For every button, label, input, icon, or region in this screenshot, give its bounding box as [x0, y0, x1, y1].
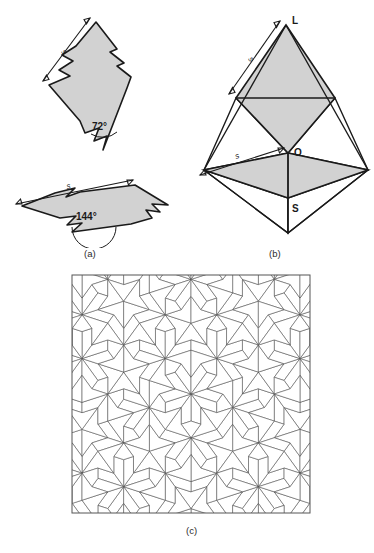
panel-a-rhombs: s 72° s 144°	[0, 8, 190, 248]
caption-b: (b)	[269, 248, 281, 259]
fat-rhomb-side-label: s	[66, 181, 72, 191]
vertex-label-S: S	[292, 203, 299, 214]
thin-rhomb-angle-label: 72°	[92, 121, 107, 132]
fat-rhomb-angle-label: 144°	[76, 211, 97, 222]
panel-b-construction: s s L O S	[180, 8, 374, 248]
thin-rhomb-tile	[49, 22, 131, 150]
vertex-label-O: O	[294, 147, 302, 158]
caption-c: (c)	[186, 525, 197, 536]
vertex-label-L: L	[292, 15, 298, 26]
figure-root: s 72° s 144°	[0, 0, 374, 553]
cut-off-header-text	[0, 0, 374, 2]
panel-c-penrose-tiling	[71, 274, 311, 514]
caption-a: (a)	[84, 248, 96, 259]
fat-rhomb-tile	[22, 185, 168, 232]
tiling-layer	[71, 274, 311, 514]
